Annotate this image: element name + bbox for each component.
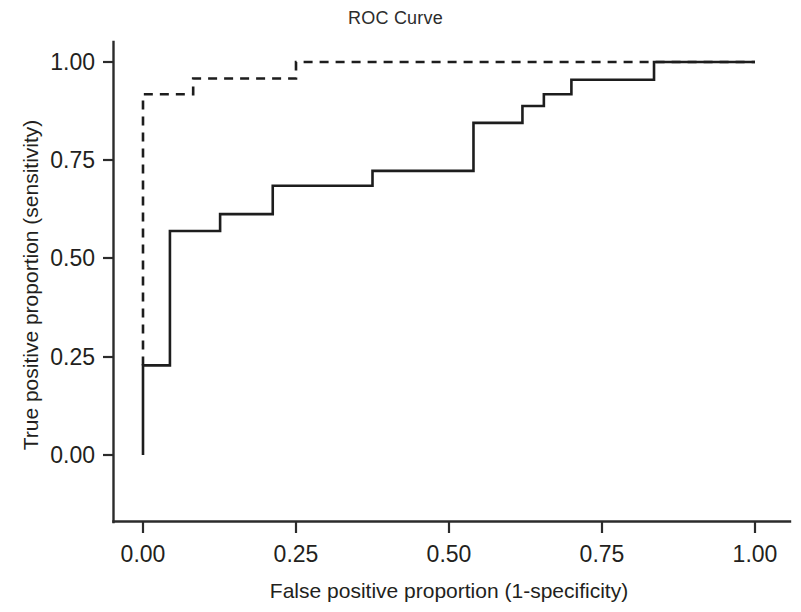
chart-title: ROC Curve	[0, 8, 801, 29]
y-tick-label-4: 1.00	[50, 49, 95, 75]
x-axis-tick-labels: 0.00 0.25 0.50 0.75 1.00	[121, 541, 778, 567]
y-tick-label-1: 0.25	[50, 344, 95, 370]
chart-title-text: ROC Curve	[348, 8, 443, 29]
roc-curve-solid-series	[143, 62, 755, 455]
y-axis-tick-labels: 1.00 0.75 0.50 0.25 0.00	[50, 49, 95, 468]
x-tick-label-2: 0.50	[427, 541, 472, 567]
roc-curve-figure: ROC Curve 1.00 0.75 0.50 0.25 0.00	[0, 0, 801, 612]
x-axis-ticks	[143, 522, 755, 534]
x-tick-label-3: 0.75	[580, 541, 625, 567]
y-axis-ticks	[103, 62, 114, 455]
y-tick-label-2: 0.50	[50, 245, 95, 271]
y-tick-label-3: 0.75	[50, 147, 95, 173]
y-axis-title: True positive proportion (sensitivity)	[19, 120, 42, 451]
x-tick-label-1: 0.25	[274, 541, 319, 567]
x-tick-label-4: 1.00	[733, 541, 778, 567]
x-axis-title: False positive proportion (1-specificity…	[270, 579, 628, 602]
x-tick-label-0: 0.00	[121, 541, 166, 567]
y-tick-label-0: 0.00	[50, 442, 95, 468]
plot-area: 1.00 0.75 0.50 0.25 0.00 0.00 0.25 0.50 …	[0, 0, 801, 612]
